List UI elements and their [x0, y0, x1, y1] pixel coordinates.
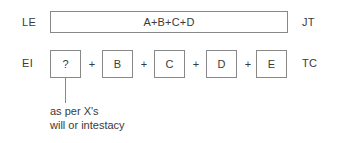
estate-total-box-label: A+B+C+D: [51, 12, 287, 32]
plus-operator-1: +: [86, 50, 98, 78]
annotation-note-line-2: will or intestacy: [50, 118, 125, 132]
component-box-c: C: [154, 50, 185, 78]
component-box-d: D: [206, 50, 237, 78]
row-1-left-label: LE: [22, 16, 36, 28]
component-box-unknown: ?: [50, 50, 81, 78]
estate-total-box: A+B+C+D: [50, 11, 288, 33]
row-2-right-label: TC: [302, 57, 317, 69]
estate-distribution-diagram: LE A+B+C+D JT EI ? + B + C + D + E TC as…: [0, 0, 338, 143]
row-1-right-label: JT: [302, 16, 315, 28]
annotation-note: as per X's will or intestacy: [50, 104, 125, 132]
plus-operator-2: +: [138, 50, 150, 78]
annotation-note-line-1: as per X's: [50, 104, 125, 118]
plus-operator-4: +: [242, 50, 254, 78]
component-box-b: B: [102, 50, 133, 78]
annotation-leader-line: [65, 78, 66, 103]
plus-operator-3: +: [190, 50, 202, 78]
component-box-e: E: [256, 50, 287, 78]
row-2-left-label: EI: [22, 57, 33, 69]
